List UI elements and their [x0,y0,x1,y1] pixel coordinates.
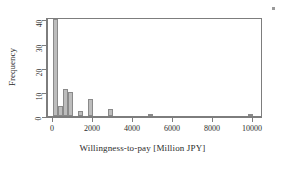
x-axis-line [47,117,262,118]
bars-layer [48,19,261,116]
histogram-bar [88,99,93,116]
y-axis-tick-label: 20 [35,68,43,76]
x-axis-tick [92,117,93,122]
y-axis-tick-label: 10 [35,93,43,101]
corner-artifact-icon [272,7,275,10]
x-axis-tick [252,117,253,122]
x-axis-tick [132,117,133,122]
y-axis-line [46,18,47,117]
histogram-bar [248,114,253,116]
x-axis-tick-label: 10000 [242,124,262,133]
plot-area [47,18,262,117]
histogram-bar [53,19,58,116]
x-axis-tick [52,117,53,122]
x-axis-title: Willingness-to-pay [Million JPY] [0,143,285,153]
y-axis-title: Frequency [7,48,17,86]
x-axis-tick [172,117,173,122]
x-axis-tick-label: 2000 [84,124,100,133]
histogram-bar [68,92,73,116]
x-axis-tick-label: 6000 [164,124,180,133]
y-axis-tick-label: 0 [35,117,43,121]
x-axis-tick [212,117,213,122]
x-axis-tick-label: 8000 [204,124,220,133]
x-axis-tick-label: 0 [50,124,54,133]
histogram-bar [148,114,153,116]
histogram-bar [108,109,113,116]
y-axis-tick-label: 40 [35,20,43,28]
histogram-figure: 010203040 0200040006000800010000 Frequen… [0,0,285,172]
x-axis-tick-label: 4000 [124,124,140,133]
histogram-bar [78,111,83,116]
y-axis-tick-label: 30 [35,44,43,52]
x-axis: 0200040006000800010000 [47,117,262,123]
y-axis: 010203040 [41,18,47,117]
